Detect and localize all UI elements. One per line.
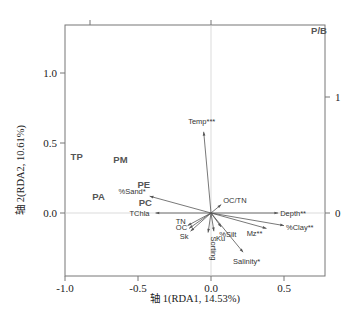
env-label: Temp*** [188,117,215,126]
y-tick-label: 1.0 [43,67,57,79]
plot-frame [65,25,325,276]
env-vector-arrow [211,213,284,226]
y-axis-title: 轴 2(RDA2, 10.61%) [14,125,27,215]
x-axis: -1.0-0.50.00.5 [56,276,291,294]
env-label: %Clay** [286,223,314,232]
x-tick-label: 0.5 [277,282,291,294]
rda-biplot: -1.0-0.50.00.5 0.00.51.0 01 轴 1(RDA1, 14… [0,0,356,322]
x-tick-label: -0.5 [129,282,147,294]
arrowhead-icon [188,223,192,226]
arrowhead-icon [262,226,266,229]
arrowhead-icon [280,224,284,227]
arrowhead-icon [274,212,278,215]
arrowhead-icon [207,229,210,233]
env-label: OC/TN [223,196,246,205]
env-vector-arrow [189,213,211,228]
y-tick-label: 0.5 [43,137,57,149]
env-vector-arrow [211,213,266,228]
env-vector-arrow [204,132,211,213]
right-tick-label: 0 [335,207,341,219]
site-label: PM [113,154,127,165]
y-axis-left: 0.00.51.0 [43,67,65,219]
env-vectors: Temp***%Sand*TChlaTNOCSkSortingKu%SiltOC… [119,117,314,266]
site-label: PC [139,197,152,208]
env-label: Salinity* [233,257,260,266]
y-axis-right: 01 [325,91,341,219]
arrowhead-icon [212,227,215,231]
env-vector-arrow [150,196,211,213]
env-label: Mz** [247,229,263,238]
site-label: PA [92,191,105,202]
site-label: TP [71,151,84,162]
right-tick-label: 1 [335,91,341,103]
env-label: OC [176,223,188,232]
site-label: PE [137,179,150,190]
arrowhead-icon [156,212,160,215]
env-label: Sk [180,232,189,241]
x-axis-title: 轴 1(RDA1, 14.53%) [150,292,240,305]
x-tick-label: -1.0 [56,282,74,294]
env-label: TChla [130,209,151,218]
env-label: Depth** [280,209,306,218]
y-tick-label: 0.0 [43,207,57,219]
site-label: P/B [311,25,327,36]
